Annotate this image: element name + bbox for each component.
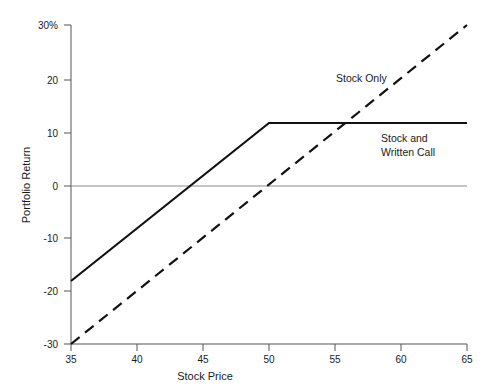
x-tick-label-50: 50 — [263, 354, 275, 365]
y-tick-label-30: 30% — [38, 20, 58, 31]
y-tick-label-neg20: -20 — [44, 286, 59, 297]
x-tick-label-55: 55 — [329, 354, 341, 365]
chart-background — [0, 0, 485, 386]
x-tick-label-60: 60 — [395, 354, 407, 365]
x-tick-label-65: 65 — [461, 354, 473, 365]
y-tick-label-neg30: -30 — [44, 339, 59, 350]
annotation-written-call-line1: Stock and — [381, 132, 428, 144]
annotation-written-call-line2: Written Call — [381, 146, 435, 158]
chart-canvas: 30% 20 10 0 -10 -20 -30 35 40 45 50 55 6… — [0, 0, 485, 386]
x-tick-label-40: 40 — [131, 354, 143, 365]
x-axis-title: Stock Price — [177, 370, 233, 382]
y-tick-label-10: 10 — [47, 128, 59, 139]
y-tick-label-0: 0 — [52, 181, 58, 192]
y-tick-label-neg10: -10 — [44, 233, 59, 244]
payoff-diagram-chart: 30% 20 10 0 -10 -20 -30 35 40 45 50 55 6… — [0, 0, 485, 386]
x-tick-label-35: 35 — [65, 354, 77, 365]
x-tick-label-45: 45 — [197, 354, 209, 365]
y-axis-title: Portfolio Return — [20, 147, 32, 223]
y-tick-label-20: 20 — [47, 75, 59, 86]
annotation-stock-only: Stock Only — [336, 72, 388, 84]
